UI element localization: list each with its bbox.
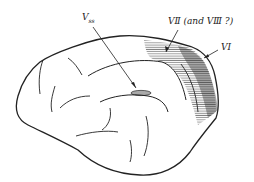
area-vss-spot (131, 90, 151, 95)
sulcus-central (68, 58, 82, 75)
label-v2-v3: VⅡ (and VⅢ ?) (168, 16, 233, 26)
sulcus-frontal (60, 96, 90, 108)
brain-drawing (0, 0, 254, 182)
sulcus-temporal-1 (102, 108, 111, 130)
sulcus-temporal-4 (130, 140, 132, 162)
label-vss: Vss (82, 12, 95, 24)
sulcus-temporal-2 (76, 131, 118, 136)
sulcus-arcuate (39, 60, 43, 94)
sulcus-principal (51, 86, 55, 112)
vss-arrowhead (131, 82, 136, 88)
sulcus-temporal-3 (144, 116, 148, 156)
brain-diagram: Vss VⅡ (and VⅢ ?) VⅠ (0, 0, 254, 182)
label-v1: VⅠ (221, 42, 231, 52)
